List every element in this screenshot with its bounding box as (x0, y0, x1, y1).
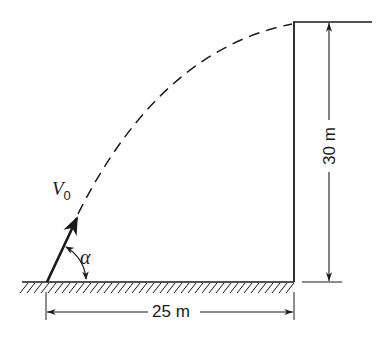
cliff-height-label: 30 m (320, 125, 340, 167)
velocity-subscript: 0 (64, 188, 71, 203)
diagram-canvas (0, 0, 391, 341)
velocity-arrow (47, 218, 77, 282)
projectile-diagram: V0 α 25 m 30 m (0, 0, 391, 341)
velocity-symbol: V (52, 178, 64, 199)
ground (20, 282, 294, 293)
trajectory-path (78, 24, 292, 214)
velocity-label: V0 (52, 178, 71, 200)
horizontal-distance-label: 25 m (152, 302, 190, 322)
angle-label: α (80, 246, 91, 269)
